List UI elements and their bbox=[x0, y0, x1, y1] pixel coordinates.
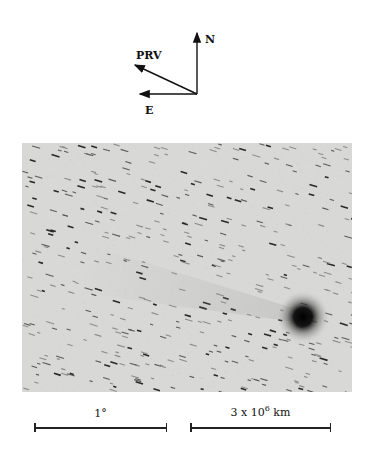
scale-bar-degree bbox=[34, 423, 167, 433]
prv-label: PRV bbox=[136, 49, 162, 62]
east-label: E bbox=[145, 104, 153, 117]
scale-bar-distance bbox=[190, 423, 331, 433]
prv-arrow-icon bbox=[135, 65, 197, 94]
scale-label-distance: 3 x 106 km bbox=[190, 404, 331, 419]
north-label: N bbox=[205, 33, 215, 46]
star-field bbox=[22, 143, 352, 392]
scale-label-degree: 1° bbox=[34, 407, 167, 420]
orientation-compass bbox=[0, 0, 368, 140]
comet-image bbox=[22, 143, 352, 392]
